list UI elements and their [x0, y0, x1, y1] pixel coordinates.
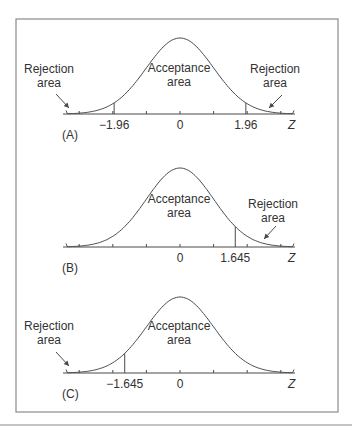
- panel-a: Acceptance area RejectionareaRejectionar…: [24, 38, 300, 142]
- panel-label: (B): [62, 261, 78, 275]
- acceptance-area-label: Acceptance: [148, 61, 211, 75]
- rejection-area-label: Rejection: [24, 319, 74, 333]
- rejection-area-labels: Rejectionarea: [24, 319, 74, 366]
- acceptance-area-label: Acceptance: [148, 192, 211, 206]
- tick-label: 1.96: [234, 118, 258, 132]
- tick-label: 0: [177, 118, 184, 132]
- tick-label: 0: [177, 377, 184, 391]
- panel-c: Acceptance area Rejectionarea −1.6450 Z …: [24, 297, 296, 401]
- tick-label: −1.645: [106, 377, 143, 391]
- acceptance-area-label: Acceptance: [148, 319, 211, 333]
- rejection-area-label-line2: area: [37, 333, 61, 347]
- tick-label: 1.645: [220, 251, 250, 265]
- rejection-area-label: Rejection: [250, 62, 300, 76]
- x-axis: [63, 370, 295, 373]
- tick-labels: −1.9601.96: [99, 118, 258, 132]
- x-axis: [63, 111, 295, 114]
- tick-label: 0: [177, 251, 184, 265]
- z-axis-label: Z: [287, 377, 296, 391]
- tick-label: −1.96: [99, 118, 130, 132]
- normal-distribution-figure: Acceptance area RejectionareaRejectionar…: [0, 0, 352, 431]
- rejection-area-label-line2: area: [261, 211, 285, 225]
- rejection-area-label-line2: area: [263, 76, 287, 90]
- acceptance-area-label-line2: area: [167, 75, 191, 89]
- tick-labels: 01.645: [177, 251, 251, 265]
- rejection-area-label: Rejection: [248, 197, 298, 211]
- panel-b: Acceptance area Rejectionarea 01.645 Z (…: [62, 168, 298, 275]
- z-axis-label: Z: [287, 118, 296, 132]
- x-axis: [63, 244, 295, 247]
- rejection-area-label-line2: area: [37, 76, 61, 90]
- panel-label: (A): [62, 128, 78, 142]
- acceptance-area-label-line2: area: [167, 206, 191, 220]
- rejection-area-label: Rejection: [24, 62, 74, 76]
- rejection-area-labels: Rejectionarea: [248, 197, 298, 239]
- acceptance-area-label-line2: area: [167, 333, 191, 347]
- z-axis-label: Z: [287, 251, 296, 265]
- tick-labels: −1.6450: [106, 377, 183, 391]
- panel-label: (C): [62, 387, 79, 401]
